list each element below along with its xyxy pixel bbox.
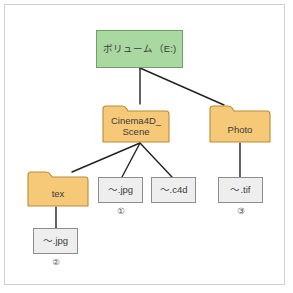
diagram-canvas: ボリューム（E:) Cinema4D_ Scene Photo: [0, 0, 293, 293]
node-folder-cinema4d-scene-label: Cinema4D_ Scene: [111, 110, 161, 138]
node-file-jpg-2[interactable]: 〜.jpg: [33, 228, 78, 254]
edge-c4d_dir-to-tex: [72, 143, 140, 172]
marker-3: ③: [231, 206, 251, 216]
folder-label-line1: Photo: [228, 124, 253, 135]
marker-1: ①: [111, 206, 131, 216]
node-folder-photo-label: Photo: [228, 112, 253, 135]
edge-c4d_dir-to-jpg1: [122, 143, 140, 177]
node-file-tif[interactable]: 〜.tif: [218, 177, 263, 203]
edge-drive-to-photo: [140, 68, 224, 105]
edge-c4d_dir-to-c4d: [140, 143, 172, 177]
node-folder-tex[interactable]: tex: [27, 170, 89, 207]
node-drive-volume-label: ボリューム（E:): [103, 43, 177, 55]
node-file-jpg-1[interactable]: 〜.jpg: [98, 177, 143, 203]
node-folder-photo[interactable]: Photo: [209, 104, 271, 143]
node-file-c4d-label: 〜.c4d: [160, 184, 188, 195]
node-file-jpg-1-label: 〜.jpg: [108, 184, 133, 195]
diagram-page: ボリューム（E:) Cinema4D_ Scene Photo: [0, 0, 293, 293]
folder-label-line1: Cinema4D_: [111, 115, 161, 126]
node-folder-tex-label: tex: [52, 177, 65, 199]
folder-label-line1: tex: [52, 188, 65, 199]
node-file-c4d[interactable]: 〜.c4d: [151, 177, 196, 203]
node-file-jpg-2-label: 〜.jpg: [43, 235, 68, 246]
marker-2: ②: [46, 257, 66, 267]
node-drive-volume[interactable]: ボリューム（E:): [96, 30, 183, 68]
node-folder-cinema4d-scene[interactable]: Cinema4D_ Scene: [102, 104, 170, 143]
node-file-tif-label: 〜.tif: [230, 184, 250, 195]
folder-label-line2: Scene: [111, 126, 161, 137]
